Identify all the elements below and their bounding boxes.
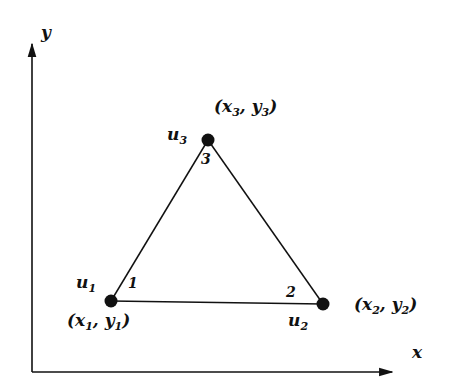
node-3-u-label: u3: [167, 126, 187, 146]
edge-3-1: [111, 140, 208, 301]
node-2-local-index: 2: [286, 285, 296, 299]
triangle-element-diagram: [0, 0, 462, 391]
node-1-dot: [105, 295, 118, 308]
node-3-dot: [202, 134, 215, 147]
node-3-local-index: 3: [201, 152, 211, 166]
node-1-coord-label: (x1, y1): [67, 312, 130, 332]
edge-2-3: [208, 140, 323, 304]
node-2-dot: [317, 298, 330, 311]
x-axis-label: x: [412, 344, 422, 361]
node-1-u-label: u1: [76, 274, 96, 294]
node-3-coord-label: (x3, y3): [214, 98, 277, 118]
node-2-u-label: u2: [288, 312, 308, 332]
node-1-local-index: 1: [128, 276, 138, 290]
edge-1-2: [111, 301, 323, 304]
node-2-coord-label: (x2, y2): [354, 296, 417, 316]
y-axis-label: y: [41, 24, 51, 41]
